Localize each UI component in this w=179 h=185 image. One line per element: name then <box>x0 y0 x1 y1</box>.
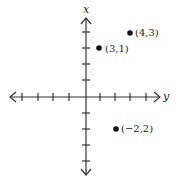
point-label-4-3: (4,3) <box>135 27 159 38</box>
point-4-3 <box>127 30 133 36</box>
horizontal-axis <box>10 92 160 102</box>
point-label-neg2-2: (−2,2) <box>121 123 153 134</box>
point-label-3-1: (3,1) <box>105 43 129 54</box>
coordinate-plane: x y (4,3) (3,1) (−2,2) <box>0 0 179 185</box>
point-neg2-2 <box>113 126 119 132</box>
vertical-axis-label: x <box>83 3 90 16</box>
point-3-1 <box>96 45 102 51</box>
horizontal-axis-label: y <box>162 90 170 103</box>
